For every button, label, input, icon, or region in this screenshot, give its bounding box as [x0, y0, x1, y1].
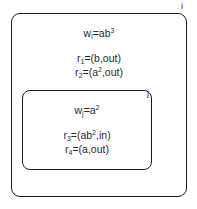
rule-3-subscript: 3	[67, 135, 71, 142]
rule-4-symbol: r	[65, 143, 69, 155]
outer-region-content: wi=ab3 r1=(b,out) r2=(a2,out)	[11, 27, 187, 80]
nested-region-diagram: i wi=ab3 r1=(b,out) r2=(a2,out) j wj=a2 …	[0, 0, 197, 209]
rule-4-subscript: 4	[69, 149, 73, 156]
outer-weight-subscript: i	[91, 33, 93, 40]
inner-weight-symbol: w	[74, 104, 82, 116]
inner-region-label: j	[147, 89, 149, 98]
outer-region-rule-2: r2=(a2,out)	[11, 66, 187, 80]
rule-1-symbol: r	[77, 52, 81, 64]
rule-1-close-paren: )	[117, 52, 121, 64]
rule-2-term-exponent: 2	[98, 66, 102, 73]
rule-3-direction: in	[99, 129, 107, 141]
rule-3-close-paren: )	[107, 129, 111, 141]
inner-region-rule-3: r3=(ab2,in)	[22, 129, 152, 143]
rule-3-term-exponent: 2	[92, 129, 96, 136]
inner-region-weight: wj=a2	[22, 104, 152, 118]
outer-weight-symbol: w	[84, 27, 92, 39]
rule-4-direction: out	[91, 143, 106, 155]
rule-2-subscript: 2	[79, 72, 83, 79]
outer-region-label: i	[181, 2, 183, 11]
inner-weight-base: a	[90, 104, 96, 116]
rule-1-subscript: 1	[81, 58, 85, 65]
rule-3-term: ab	[80, 129, 92, 141]
inner-region-rule-4: r4=(a,out)	[22, 143, 152, 157]
outer-weight-base: ab	[99, 27, 111, 39]
inner-weight-exponent: 2	[96, 104, 100, 111]
rule-2-direction: out	[105, 66, 120, 78]
inner-weight-subscript: j	[82, 110, 84, 117]
outer-region-rule-1: r1=(b,out)	[11, 52, 187, 66]
rule-1-direction: out	[103, 52, 118, 64]
inner-region-content: wj=a2 r3=(ab2,in) r4=(a,out)	[22, 104, 152, 157]
outer-region-weight: wi=ab3	[11, 27, 187, 41]
rule-4-close-paren: )	[105, 143, 109, 155]
rule-2-close-paren: )	[119, 66, 123, 78]
outer-weight-exponent: 3	[111, 27, 115, 34]
